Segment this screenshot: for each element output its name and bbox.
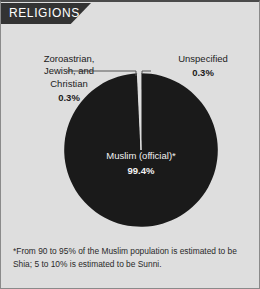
callout-right-value: 0.3% [153,67,253,80]
center-label-text: Muslim (official)* [106,150,176,161]
pie-center-label: Muslim (official)* 99.4% [51,149,231,177]
callout-left-text: Zoroastrian, Jewish, and Christian [44,53,95,89]
religions-infographic-card: RELIGIONS Zoroastrian, Jewish, and Chris… [0,0,260,289]
center-label-value: 99.4% [51,164,231,177]
page-title: RELIGIONS [9,6,80,21]
callout-label-right: Unspecified 0.3% [153,40,253,92]
pie-chart: Zoroastrian, Jewish, and Christian 0.3% … [1,24,259,236]
footnote-text: *From 90 to 95% of the Muslim population… [13,245,249,270]
callout-left-value: 0.3% [15,92,123,105]
callout-right-text: Unspecified [178,53,228,64]
callout-label-left: Zoroastrian, Jewish, and Christian 0.3% [15,40,123,117]
